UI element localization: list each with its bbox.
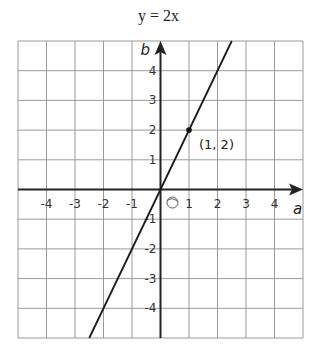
x-tick-label: 1 [185,197,193,211]
y-tick-label: 3 [149,93,157,107]
point-label: (1, 2) [199,137,234,152]
x-tick-label: 3 [242,197,250,211]
y-axis-label: b [141,41,151,59]
x-tick-label: 2 [214,197,222,211]
x-axis-label: a [293,200,302,218]
y-tick-label: -2 [145,242,157,256]
y-tick-label: 4 [149,64,157,78]
x-tick-label: -2 [98,197,110,211]
y-tick-label: 2 [149,123,157,137]
y-tick-label: -4 [145,301,157,315]
x-tick-label: -1 [126,197,138,211]
coordinate-plane: ab -4-3-2-112344321-1-2-3-4 (1, 2) [0,0,317,348]
y-tick-label: -3 [145,272,157,286]
x-tick-label: 4 [271,197,279,211]
x-tick-label: -3 [69,197,81,211]
x-tick-label: -4 [41,197,53,211]
data-point [186,127,192,133]
origin-label [167,197,178,208]
y-tick-label: 1 [149,153,157,167]
